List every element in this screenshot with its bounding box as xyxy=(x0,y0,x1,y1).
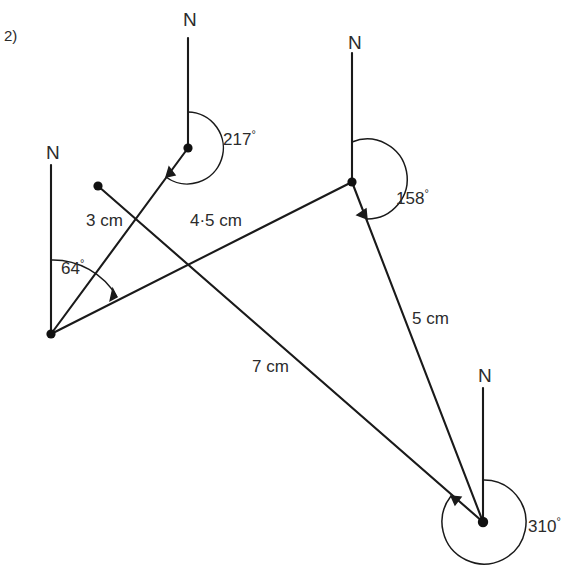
north-label-d: N xyxy=(478,366,492,385)
angle-label-64: 64° xyxy=(61,258,84,277)
vertex-e-dot xyxy=(93,181,102,190)
degree-symbol-158: ° xyxy=(424,187,428,199)
angle-value-64: 64 xyxy=(61,259,80,278)
angle-value-310: 310 xyxy=(528,517,556,536)
angle-value-217: 217 xyxy=(223,130,251,149)
question-number: 2) xyxy=(4,28,17,43)
vertex-c-dot xyxy=(347,177,356,186)
degree-symbol-310: ° xyxy=(556,515,560,527)
bearings-diagram-canvas: 2) N N N N 3 cm 4·5 cm 5 cm 7 cm 64° 217… xyxy=(0,0,588,579)
segment-5cm xyxy=(352,182,483,522)
diagram-svg xyxy=(0,0,588,579)
north-label-c: N xyxy=(348,33,362,52)
segment-4-5cm xyxy=(51,182,352,334)
vertex-a-dot xyxy=(46,329,55,338)
length-label-4-5cm: 4·5 cm xyxy=(190,212,242,229)
vertex-b-dot xyxy=(183,143,192,152)
north-lines-group xyxy=(51,38,483,522)
length-label-5cm: 5 cm xyxy=(412,310,449,327)
angle-arc-217 xyxy=(166,112,223,184)
angle-label-217: 217° xyxy=(223,129,256,148)
angle-value-158: 158 xyxy=(396,189,424,208)
north-label-b: N xyxy=(183,10,197,29)
length-label-3cm: 3 cm xyxy=(86,212,123,229)
degree-symbol-217: ° xyxy=(251,128,255,140)
angle-label-310: 310° xyxy=(528,516,561,535)
length-label-7cm: 7 cm xyxy=(252,358,289,375)
north-label-a: N xyxy=(46,143,60,162)
angle-arcs-group xyxy=(51,112,526,564)
degree-symbol-64: ° xyxy=(80,257,84,269)
segment-7cm xyxy=(98,186,483,522)
angle-label-158: 158° xyxy=(396,188,429,207)
vertex-d-dot xyxy=(478,517,488,527)
